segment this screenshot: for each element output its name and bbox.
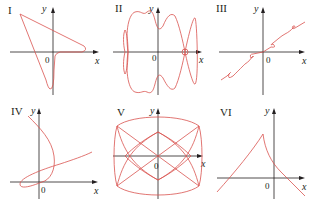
- origin-label: 0: [41, 185, 46, 195]
- origin-label: 0: [265, 181, 270, 191]
- panel-V: V x y 0: [103, 100, 208, 203]
- panel-label: VI: [220, 106, 232, 118]
- axes: [217, 108, 305, 199]
- origin-label: 0: [152, 53, 157, 63]
- y-axis-label: y: [41, 3, 47, 14]
- y-axis-label: y: [264, 105, 270, 116]
- y-axis-label: y: [149, 105, 155, 116]
- y-arrow-icon: [51, 7, 55, 13]
- y-axis-label: y: [253, 3, 259, 14]
- x-axis-label: x: [93, 185, 99, 196]
- origin-label: 0: [45, 55, 50, 65]
- x-arrow-icon: [93, 50, 99, 54]
- panel-label: I: [8, 4, 12, 16]
- panel-IV: IV x y 0: [0, 100, 105, 203]
- panel-VI: VI x y 0: [205, 100, 311, 203]
- axes: [113, 7, 202, 95]
- y-axis-label: y: [30, 105, 36, 116]
- axes: [219, 7, 305, 95]
- panel-label: II: [115, 2, 123, 14]
- x-axis-label: x: [301, 181, 307, 192]
- parametric-curve: [20, 116, 92, 187]
- panel-label: III: [216, 2, 227, 14]
- panel-label: V: [117, 106, 125, 118]
- panel-III: III x y 0: [205, 0, 311, 100]
- x-axis-label: x: [198, 54, 204, 65]
- origin-label: 0: [266, 55, 271, 65]
- y-axis-label: y: [148, 3, 154, 14]
- x-axis-label: x: [301, 55, 307, 66]
- panel-II: II x y 0: [103, 0, 208, 100]
- axes: [113, 108, 203, 199]
- x-axis-label: x: [94, 55, 100, 66]
- axes: [10, 7, 99, 95]
- panel-I: I x y 0: [0, 0, 105, 100]
- parametric-curve: [217, 134, 305, 196]
- origin-label: 0: [154, 161, 159, 171]
- panel-label: IV: [11, 105, 23, 117]
